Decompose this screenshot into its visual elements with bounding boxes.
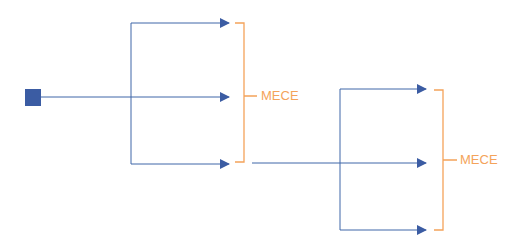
root-node: [25, 89, 41, 106]
mece-tree-diagram: [0, 0, 531, 250]
mece-label-1: MECE: [261, 89, 299, 103]
branch-group-2: [252, 89, 426, 230]
bracket-1: [235, 23, 257, 162]
branch-group-1: [41, 23, 229, 164]
mece-label-2: MECE: [460, 153, 498, 167]
bracket-2: [434, 90, 457, 230]
